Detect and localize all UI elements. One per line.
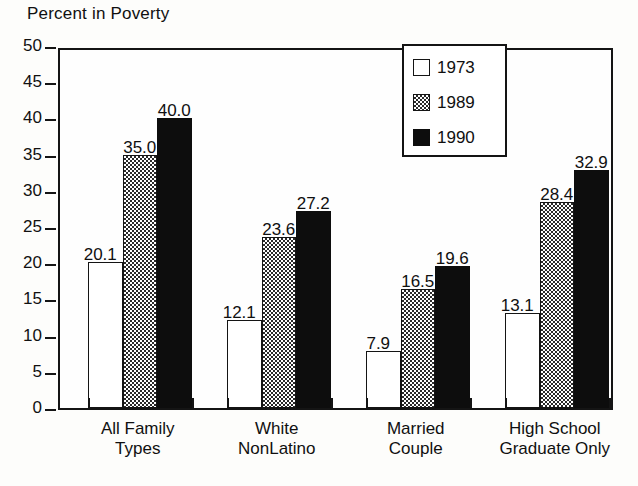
y-axis-tick-label: 5 [33, 363, 42, 380]
bar-1990-4 [574, 170, 609, 408]
y-axis-tick-mark [45, 264, 56, 266]
y-axis-tick-label: 40 [23, 109, 42, 126]
legend-item-1990: 1990 [413, 126, 475, 148]
white-square-icon [413, 59, 430, 76]
bar-value-label: 13.1 [494, 297, 540, 314]
y-axis-tick-mark [45, 337, 56, 339]
bar-value-label: 7.9 [355, 335, 401, 352]
y-axis-tick-label: 50 [23, 37, 42, 54]
bar-1973-4 [505, 313, 540, 408]
plot-inner: 20.135.040.012.123.627.27.916.519.613.12… [60, 50, 611, 408]
y-axis-tick-mark [45, 228, 56, 230]
y-axis-tick-mark [45, 156, 56, 158]
y-axis-tick-label: 45 [23, 73, 42, 90]
x-axis-label-line: Couple [341, 439, 491, 459]
legend-item-label: 1989 [437, 94, 475, 111]
bar-value-label: 19.6 [429, 250, 475, 267]
x-axis-label-line: Graduate Only [480, 439, 630, 459]
bar-value-label: 16.5 [395, 273, 441, 290]
y-axis-tick-mark [45, 192, 56, 194]
x-axis-tick-mark [505, 398, 507, 409]
bar-value-label: 20.1 [77, 246, 123, 263]
y-axis-tick-label: 0 [33, 399, 42, 416]
y-axis-tick-mark [45, 83, 56, 85]
bar-1990-3 [435, 266, 470, 408]
x-axis-label-line: NonLatino [202, 439, 352, 459]
y-axis-tick-label: 10 [23, 327, 42, 344]
legend-item-1989: 1989 [413, 91, 475, 113]
stippled-square-icon [413, 94, 430, 111]
y-axis-tick-label: 35 [23, 146, 42, 163]
legend: 197319891990 [402, 44, 507, 157]
x-axis-tick-mark [227, 398, 229, 409]
bar-value-label: 28.4 [534, 186, 580, 203]
bar-1989-2 [262, 237, 297, 408]
y-axis-tick-label: 15 [23, 290, 42, 307]
x-axis-label-line: All Family [101, 419, 175, 438]
chart-figure: Percent in Poverty 50454035302520151050 … [0, 0, 638, 486]
x-axis-label-group-4: High SchoolGraduate Only [480, 419, 630, 458]
bar-1989-1 [123, 155, 158, 408]
x-axis-label-line: White [255, 419, 298, 438]
bar-1989-4 [540, 202, 575, 408]
legend-item-1973: 1973 [413, 56, 475, 78]
bar-1973-2 [227, 320, 262, 408]
bar-value-label: 27.2 [290, 195, 336, 212]
x-axis-tick-mark [609, 398, 611, 409]
x-axis-label-group-3: MarriedCouple [341, 419, 491, 458]
x-axis-label-line: Types [63, 439, 213, 459]
bar-value-label: 35.0 [117, 139, 163, 156]
y-axis-tick-mark [45, 119, 56, 121]
legend-item-label: 1973 [437, 59, 475, 76]
bar-value-label: 23.6 [256, 221, 302, 238]
bar-1973-3 [366, 351, 401, 408]
y-axis-tick-mark [45, 373, 56, 375]
x-axis-label-line: High School [509, 419, 601, 438]
x-axis-tick-mark [366, 398, 368, 409]
bar-1989-3 [401, 289, 436, 408]
bar-value-label: 32.9 [568, 154, 614, 171]
y-axis-tick-mark [45, 300, 56, 302]
x-axis-tick-mark [192, 398, 194, 409]
x-axis-label-group-2: WhiteNonLatino [202, 419, 352, 458]
bar-1973-1 [88, 262, 123, 408]
x-axis-label-line: Married [387, 419, 445, 438]
bar-value-label: 40.0 [151, 102, 197, 119]
y-axis-tick-label: 30 [23, 182, 42, 199]
bar-value-label: 12.1 [216, 304, 262, 321]
y-axis-tick-mark [45, 409, 56, 411]
y-axis-tick-label: 25 [23, 218, 42, 235]
x-axis-tick-mark [470, 398, 472, 409]
legend-item-label: 1990 [437, 129, 475, 146]
black-square-icon [413, 129, 430, 146]
y-axis-tick-label: 20 [23, 254, 42, 271]
x-axis-tick-mark [88, 398, 90, 409]
bar-1990-1 [157, 118, 192, 408]
y-axis-tick-mark [45, 47, 56, 49]
plot-area: 20.135.040.012.123.627.27.916.519.613.12… [58, 48, 613, 410]
x-axis-label-group-1: All FamilyTypes [63, 419, 213, 458]
bar-1990-2 [296, 211, 331, 408]
page-title: Percent in Poverty [27, 4, 170, 24]
x-axis-tick-mark [331, 398, 333, 409]
